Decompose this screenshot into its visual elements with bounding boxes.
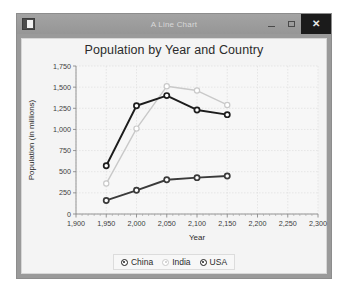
legend-item-usa[interactable]: USA bbox=[200, 257, 227, 267]
data-point bbox=[104, 198, 109, 203]
application-window: A Line Chart ✕ Population by Year and Co… bbox=[16, 13, 332, 279]
y-tick-label: 1,250 bbox=[53, 104, 71, 113]
data-point bbox=[134, 126, 139, 131]
chart-plot-container: 02505007501,0001,2501,5001,7501,9001,950… bbox=[22, 58, 326, 251]
chart-card: Population by Year and Country 025050075… bbox=[21, 38, 327, 274]
data-point bbox=[164, 93, 169, 98]
x-tick-label: 2,250 bbox=[279, 219, 297, 228]
x-tick-label: 2,050 bbox=[158, 219, 176, 228]
x-axis-label: Year bbox=[189, 233, 206, 242]
data-point bbox=[194, 175, 199, 180]
maximize-icon bbox=[288, 21, 295, 27]
minimize-button[interactable] bbox=[261, 14, 281, 34]
legend-item-india[interactable]: India bbox=[162, 257, 190, 267]
x-tick-label: 2,000 bbox=[128, 219, 146, 228]
data-point bbox=[225, 112, 230, 117]
minimize-icon bbox=[268, 26, 275, 27]
legend-label: China bbox=[131, 257, 153, 267]
x-tick-label: 2,100 bbox=[188, 219, 206, 228]
data-point bbox=[164, 177, 169, 182]
x-tick-label: 2,300 bbox=[309, 219, 327, 228]
data-point bbox=[225, 173, 230, 178]
window-titlebar[interactable]: A Line Chart ✕ bbox=[17, 14, 331, 34]
data-point bbox=[104, 163, 109, 168]
data-point bbox=[164, 84, 169, 89]
window-controls: ✕ bbox=[261, 14, 331, 34]
chart-legend: ChinaIndiaUSA bbox=[22, 251, 326, 273]
y-tick-label: 750 bbox=[59, 146, 71, 155]
x-tick-label: 2,150 bbox=[218, 219, 236, 228]
y-tick-label: 250 bbox=[59, 188, 71, 197]
legend-item-china[interactable]: China bbox=[121, 257, 153, 267]
data-point bbox=[104, 181, 109, 186]
maximize-button[interactable] bbox=[281, 14, 301, 34]
close-button[interactable]: ✕ bbox=[301, 14, 331, 34]
y-tick-label: 1,750 bbox=[53, 62, 71, 71]
y-tick-label: 1,500 bbox=[53, 83, 71, 92]
legend-label: USA bbox=[210, 257, 227, 267]
line-chart: 02505007501,0001,2501,5001,7501,9001,950… bbox=[22, 58, 328, 244]
x-tick-label: 1,950 bbox=[97, 219, 115, 228]
data-point bbox=[225, 102, 230, 107]
legend-marker-icon bbox=[121, 259, 128, 266]
y-tick-label: 1,000 bbox=[53, 125, 71, 134]
legend-label: India bbox=[172, 257, 190, 267]
x-tick-label: 1,900 bbox=[67, 219, 85, 228]
legend-box: ChinaIndiaUSA bbox=[113, 254, 235, 270]
data-point bbox=[134, 188, 139, 193]
x-tick-label: 2,200 bbox=[249, 219, 267, 228]
app-window-icon bbox=[22, 18, 35, 30]
data-point bbox=[134, 103, 139, 108]
y-tick-label: 0 bbox=[67, 210, 71, 219]
y-axis-label: Population (in millions) bbox=[27, 99, 36, 180]
data-point bbox=[194, 88, 199, 93]
legend-marker-icon bbox=[162, 259, 169, 266]
legend-marker-icon bbox=[200, 259, 207, 266]
screenshot-root: A Line Chart ✕ Population by Year and Co… bbox=[0, 0, 348, 301]
data-point bbox=[194, 107, 199, 112]
y-tick-label: 500 bbox=[59, 167, 71, 176]
chart-title: Population by Year and Country bbox=[22, 39, 326, 58]
